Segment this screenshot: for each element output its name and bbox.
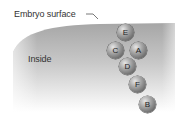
inside-label: Inside bbox=[28, 54, 51, 64]
surface-leader-line bbox=[86, 14, 98, 19]
cell-c: C bbox=[107, 42, 124, 59]
diagram: Embryo surface Inside E C A D F B bbox=[0, 0, 182, 124]
cell-e: E bbox=[117, 24, 134, 41]
cell-f: F bbox=[129, 76, 146, 93]
cell-a: A bbox=[130, 42, 147, 59]
cell-d: D bbox=[119, 58, 136, 75]
surface-label: Embryo surface bbox=[14, 9, 76, 19]
cell-b: B bbox=[139, 96, 156, 113]
